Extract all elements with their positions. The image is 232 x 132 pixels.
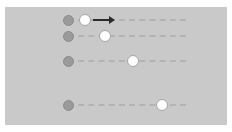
arrow-shaft (93, 19, 110, 21)
moving-token[interactable] (156, 99, 168, 111)
diagram-stage (0, 0, 232, 132)
origin-marker[interactable] (63, 15, 74, 26)
track-path (68, 104, 186, 106)
moving-token[interactable] (127, 55, 139, 67)
moving-token[interactable] (79, 14, 91, 26)
track-path (68, 35, 186, 37)
origin-marker[interactable] (63, 100, 74, 111)
origin-marker[interactable] (63, 56, 74, 67)
arrow-head (109, 16, 115, 24)
moving-token[interactable] (99, 30, 111, 42)
origin-marker[interactable] (63, 31, 74, 42)
diagram-panel (5, 7, 227, 125)
